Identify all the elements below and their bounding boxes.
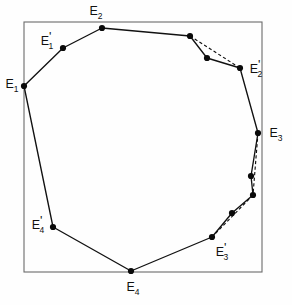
chord-e2prime <box>190 36 240 68</box>
vertex-label-E3: E3 <box>269 126 282 142</box>
figure-container: E2E'1E1E'2E3E'3E'4E4 <box>0 0 292 305</box>
frame-border <box>24 22 262 272</box>
vertex-dot-v-r-3 <box>229 210 235 216</box>
vertex-dot-v-r-2 <box>250 192 256 198</box>
vertex-dot-group <box>21 25 261 274</box>
polygon-outline <box>24 28 258 271</box>
vertex-label-E4prime: E'4 <box>32 214 45 234</box>
vertex-dot-E4 <box>128 268 134 274</box>
vertex-label-E1: E1 <box>5 77 18 93</box>
vertex-label-E2prime: E'2 <box>250 58 263 78</box>
dashed-chord-group <box>190 36 258 237</box>
vertex-label-E3prime: E'3 <box>216 241 229 261</box>
caption-text <box>0 289 292 305</box>
vertex-dot-E1 <box>21 83 27 89</box>
vertex-label-E2: E2 <box>89 4 102 20</box>
vertex-dot-v-r-1 <box>248 173 254 179</box>
vertex-label-group: E2E'1E1E'2E3E'3E'4E4 <box>5 4 282 296</box>
chord-e3-down <box>253 133 258 195</box>
vertex-dot-E2 <box>99 25 105 31</box>
vertex-dot-E1prime <box>60 45 66 51</box>
vertex-dot-v-top-r <box>187 33 193 39</box>
vertex-dot-v-mid-r <box>204 55 210 61</box>
polygon-figure: E2E'1E1E'2E3E'3E'4E4 <box>0 0 292 305</box>
vertex-label-E1prime: E'1 <box>41 30 54 50</box>
vertex-dot-E3 <box>255 130 261 136</box>
vertex-dot-E4prime <box>50 224 56 230</box>
vertex-dot-E2prime <box>237 65 243 71</box>
vertex-dot-E3prime <box>209 234 215 240</box>
